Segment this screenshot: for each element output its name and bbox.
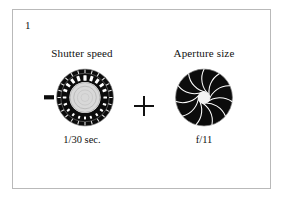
plus-vertical-bar (143, 96, 145, 116)
aperture-size-title: Aperture size (150, 47, 258, 60)
panel-aperture-size: Aperture size (150, 47, 258, 146)
shutter-speed-dial-illustration (28, 67, 136, 129)
figure-number-label: 1 (25, 20, 31, 31)
aperture-size-caption: f/11 (150, 134, 258, 146)
shutter-speed-dial-icon (44, 67, 120, 129)
panel-shutter-speed: Shutter speed (28, 47, 136, 146)
aperture-iris-icon (172, 67, 236, 129)
shutter-speed-title: Shutter speed (28, 47, 136, 60)
figure-root: 1 Shutter speed (0, 0, 286, 203)
shutter-speed-caption: 1/30 sec. (28, 134, 136, 146)
aperture-iris-illustration (150, 67, 258, 129)
